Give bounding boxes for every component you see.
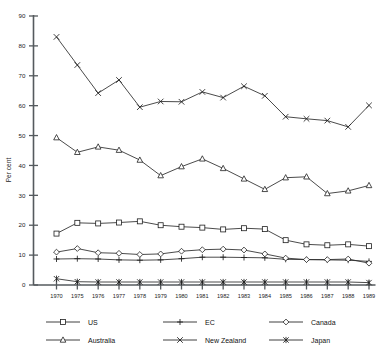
series-canada bbox=[54, 246, 372, 266]
x-tick-label-1989: 1989 bbox=[363, 293, 375, 299]
point-australia-1970 bbox=[54, 135, 60, 140]
point-canada-1987 bbox=[324, 257, 330, 263]
y-tick-label-60: 60 bbox=[19, 102, 26, 109]
x-tick-label-1970: 1970 bbox=[50, 293, 62, 299]
x-tick-label-1975: 1975 bbox=[71, 293, 83, 299]
x-tick-label-1977: 1977 bbox=[113, 293, 125, 299]
series-layer bbox=[54, 34, 373, 286]
diamond-marker-icon bbox=[283, 319, 289, 325]
legend-label-new-zealand: New Zealand bbox=[205, 337, 246, 344]
y-tick-label-40: 40 bbox=[19, 162, 26, 169]
point-us-1987 bbox=[325, 243, 330, 248]
series-line-new-zealand bbox=[57, 37, 370, 127]
point-canada-1988 bbox=[345, 256, 351, 262]
point-canada-1982 bbox=[220, 246, 226, 252]
series-line-australia bbox=[57, 138, 370, 194]
point-us-1982 bbox=[221, 227, 226, 232]
x-tick-label-1984: 1984 bbox=[259, 293, 271, 299]
point-australia-1978 bbox=[137, 157, 143, 162]
series-line-japan bbox=[57, 279, 370, 283]
point-australia-1976 bbox=[95, 144, 101, 149]
point-australia-1981 bbox=[200, 156, 206, 161]
x-tick-label-1980: 1980 bbox=[175, 293, 187, 299]
point-australia-1983 bbox=[241, 176, 247, 181]
point-australia-1986 bbox=[304, 174, 310, 179]
point-us-1983 bbox=[242, 226, 247, 231]
x-tick-label-1986: 1986 bbox=[300, 293, 312, 299]
point-us-1970 bbox=[54, 231, 59, 236]
square-marker-icon bbox=[61, 320, 66, 325]
y-tick-label-30: 30 bbox=[19, 192, 26, 199]
point-us-1989 bbox=[367, 244, 372, 249]
legend-label-japan: Japan bbox=[311, 337, 330, 345]
point-us-1980 bbox=[179, 224, 184, 229]
point-us-1986 bbox=[304, 242, 309, 247]
point-canada-1976 bbox=[95, 250, 101, 256]
point-canada-1983 bbox=[241, 247, 247, 253]
point-canada-1985 bbox=[283, 255, 289, 261]
point-us-1988 bbox=[346, 242, 351, 247]
y-tick-label-90: 90 bbox=[19, 12, 26, 19]
x-tick-label-1978: 1978 bbox=[134, 293, 146, 299]
chart-page: 0102030405060708090 19701975197619771978… bbox=[0, 0, 382, 351]
y-axis: 0102030405060708090 bbox=[19, 12, 38, 288]
legend-item-australia[interactable]: Australia bbox=[46, 337, 115, 344]
x-axis: 1970197519761977197819791980198119821983… bbox=[34, 281, 376, 300]
legend-item-canada[interactable]: Canada bbox=[269, 319, 336, 326]
legend-label-us: US bbox=[88, 319, 98, 326]
x-tick-label-1988: 1988 bbox=[342, 293, 354, 299]
point-canada-1981 bbox=[199, 247, 205, 253]
point-canada-1986 bbox=[304, 257, 310, 263]
chart-legend: USECCanadaAustraliaNew ZealandJapan bbox=[46, 319, 336, 345]
point-canada-1979 bbox=[158, 251, 164, 257]
series-australia bbox=[54, 135, 372, 196]
point-australia-1984 bbox=[262, 186, 268, 191]
x-tick-label-1983: 1983 bbox=[238, 293, 250, 299]
legend-item-japan[interactable]: Japan bbox=[269, 337, 330, 345]
point-canada-1984 bbox=[262, 251, 268, 257]
series-japan bbox=[54, 276, 372, 286]
point-us-1984 bbox=[262, 227, 267, 232]
legend-label-canada: Canada bbox=[311, 319, 336, 326]
point-us-1979 bbox=[158, 223, 163, 228]
point-us-1981 bbox=[200, 225, 205, 230]
y-tick-label-20: 20 bbox=[19, 221, 26, 228]
point-us-1977 bbox=[117, 220, 122, 225]
point-us-1985 bbox=[283, 238, 288, 243]
series-us bbox=[54, 219, 372, 249]
x-tick-label-1981: 1981 bbox=[196, 293, 208, 299]
x-tick-label-1979: 1979 bbox=[154, 293, 166, 299]
point-us-1976 bbox=[96, 221, 101, 226]
y-tick-label-10: 10 bbox=[19, 251, 26, 258]
point-canada-1975 bbox=[74, 246, 80, 252]
x-tick-label-1985: 1985 bbox=[279, 293, 291, 299]
y-tick-label-50: 50 bbox=[19, 132, 26, 139]
legend-label-ec: EC bbox=[205, 319, 215, 326]
legend-item-us[interactable]: US bbox=[46, 319, 98, 326]
series-new-zealand bbox=[54, 34, 372, 130]
legend-item-new-zealand[interactable]: New Zealand bbox=[163, 337, 246, 344]
point-australia-1989 bbox=[366, 182, 372, 187]
y-tick-label-0: 0 bbox=[22, 281, 26, 288]
point-canada-1980 bbox=[179, 248, 185, 254]
line-chart: 0102030405060708090 19701975197619771978… bbox=[0, 0, 382, 351]
series-line-canada bbox=[57, 249, 370, 264]
y-tick-label-70: 70 bbox=[19, 72, 26, 79]
legend-item-ec[interactable]: EC bbox=[163, 319, 215, 326]
point-us-1975 bbox=[75, 220, 80, 225]
point-canada-1978 bbox=[137, 252, 143, 258]
series-line-us bbox=[57, 221, 370, 246]
x-tick-label-1982: 1982 bbox=[217, 293, 229, 299]
x-tick-label-1987: 1987 bbox=[321, 293, 333, 299]
y-axis-title: Per cent bbox=[5, 158, 12, 183]
point-canada-1970 bbox=[54, 249, 60, 255]
point-canada-1977 bbox=[116, 250, 122, 256]
y-tick-label-80: 80 bbox=[19, 42, 26, 49]
point-us-1978 bbox=[137, 219, 142, 224]
legend-label-australia: Australia bbox=[88, 337, 115, 344]
x-tick-label-1976: 1976 bbox=[92, 293, 104, 299]
